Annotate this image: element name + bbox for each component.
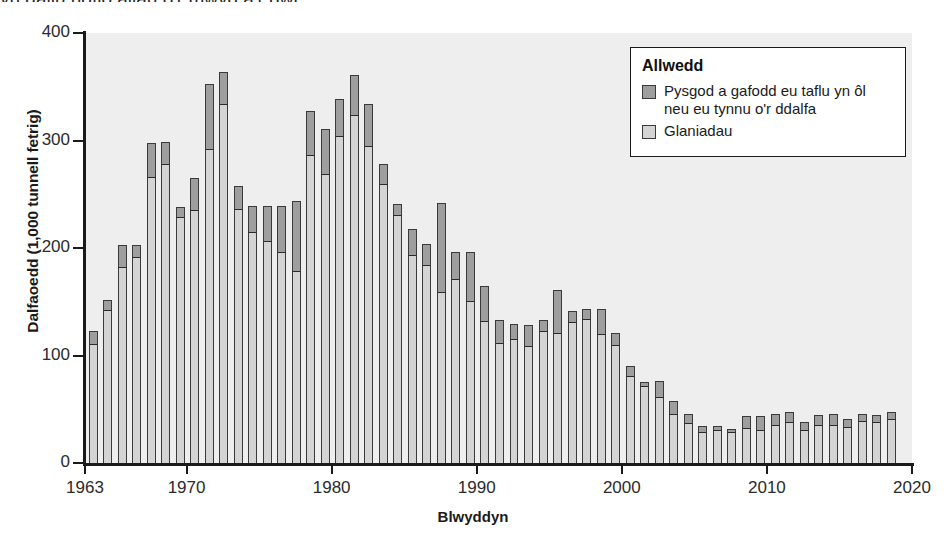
bar-segment-discards: [350, 75, 359, 116]
bar-segment-discards: [422, 244, 431, 267]
bar-segment-discards: [495, 320, 504, 344]
bar-segment-discards: [626, 366, 635, 377]
bar-segment-discards: [553, 290, 562, 334]
bar-segment-discards: [393, 204, 402, 216]
bar-segment-discards: [306, 111, 315, 155]
bar-segment-discards: [379, 164, 388, 184]
legend-title: Allwedd: [642, 57, 894, 75]
bar-1969: [176, 207, 185, 463]
bar-1985: [408, 229, 417, 463]
bar-2001: [640, 382, 649, 463]
bar-2013: [814, 415, 823, 463]
bar-segment-discards: [524, 325, 533, 347]
bar-2000: [626, 366, 635, 463]
bar-1992: [510, 324, 519, 463]
legend-label-landings: Glaniadau: [664, 122, 732, 140]
x-tick-mark: [186, 463, 188, 474]
bar-1965: [118, 245, 127, 463]
bar-2004: [684, 414, 693, 463]
bar-1991: [495, 320, 504, 463]
bar-2008: [742, 416, 751, 463]
bar-segment-discards: [205, 84, 214, 151]
bar-2011: [785, 412, 794, 463]
x-tick-label: 1963: [50, 478, 120, 498]
legend-item-discards: Pysgod a gafodd eu taflu yn ôl neu eu ty…: [642, 82, 894, 117]
bar-2009: [756, 416, 765, 463]
bar-segment-discards: [887, 412, 896, 420]
bar-segment-discards: [684, 414, 693, 425]
legend-swatch-discards-icon: [642, 85, 656, 99]
x-tick-label: 2020: [877, 478, 946, 498]
y-tick-mark: [73, 32, 84, 34]
bar-1993: [524, 325, 533, 463]
bar-1986: [422, 244, 431, 463]
bar-segment-discards: [118, 245, 127, 269]
bar-segment-discards: [437, 203, 446, 293]
bar-segment-discards: [829, 414, 838, 427]
x-tick-mark: [911, 463, 913, 474]
bar-1994: [539, 320, 548, 463]
y-tick-mark: [73, 462, 84, 464]
legend: Allwedd Pysgod a gafodd eu taflu yn ôl n…: [630, 47, 906, 157]
y-tick-label: 300: [8, 131, 70, 148]
x-tick-label: 2010: [732, 478, 802, 498]
x-tick-mark: [331, 463, 333, 474]
bar-1978: [306, 111, 315, 463]
bar-segment-discards: [451, 252, 460, 280]
bar-1967: [147, 143, 156, 463]
x-tick-mark: [621, 463, 623, 474]
bar-segment-discards: [858, 414, 867, 423]
y-tick-mark: [73, 140, 84, 142]
bar-segment-discards: [219, 72, 228, 105]
y-tick-label: 200: [8, 238, 70, 255]
bar-segment-discards: [510, 324, 519, 340]
bar-segment-discards: [814, 415, 823, 427]
bar-2003: [669, 401, 678, 463]
bar-1974: [248, 206, 257, 463]
bar-segment-discards: [611, 333, 620, 346]
bar-segment-discards: [713, 426, 722, 430]
bar-segment-discards: [727, 429, 736, 433]
bar-segment-discards: [582, 309, 591, 320]
cut-off-body-text: yn gallu nofio allan o'r mwyd a'r dŵr.: [0, 0, 620, 2]
bar-segment-discards: [147, 143, 156, 178]
x-tick-mark: [476, 463, 478, 474]
x-axis-line: [83, 463, 914, 466]
legend-swatch-landings-icon: [642, 125, 656, 139]
bar-segment-discards: [480, 286, 489, 323]
bar-segment-discards: [698, 426, 707, 432]
bar-segment-discards: [132, 245, 141, 258]
bar-1979: [321, 129, 330, 463]
bar-1977: [292, 201, 301, 463]
bar-segment-discards: [248, 206, 257, 233]
bar-1963: [89, 331, 98, 463]
bar-segment-discards: [190, 178, 199, 211]
bar-1981: [350, 75, 359, 463]
bar-segment-discards: [466, 252, 475, 301]
bar-2012: [800, 422, 809, 463]
bar-segment-discards: [597, 309, 606, 335]
bar-1968: [161, 142, 170, 463]
bar-segment-discards: [640, 382, 649, 386]
bar-1971: [205, 84, 214, 463]
bar-segment-discards: [872, 415, 881, 424]
bar-2010: [771, 414, 780, 463]
bar-segment-discards: [335, 99, 344, 138]
x-tick-mark: [84, 463, 86, 474]
x-tick-label: 1980: [297, 478, 367, 498]
bar-segment-discards: [277, 206, 286, 253]
bar-1964: [103, 300, 112, 463]
bar-2005: [698, 426, 707, 463]
bar-1980: [335, 99, 344, 463]
legend-label-discards: Pysgod a gafodd eu taflu yn ôl neu eu ty…: [664, 82, 894, 117]
x-axis-label: Blwyddyn: [0, 508, 946, 525]
bar-1996: [568, 311, 577, 463]
bar-segment-discards: [161, 142, 170, 166]
bar-segment-discards: [785, 412, 794, 423]
bar-segment-discards: [568, 311, 577, 323]
bar-1975: [263, 206, 272, 463]
bar-segment-discards: [669, 401, 678, 415]
bar-segment-discards: [89, 331, 98, 345]
bar-segment-discards: [263, 206, 272, 241]
bar-segment-discards: [742, 416, 751, 429]
